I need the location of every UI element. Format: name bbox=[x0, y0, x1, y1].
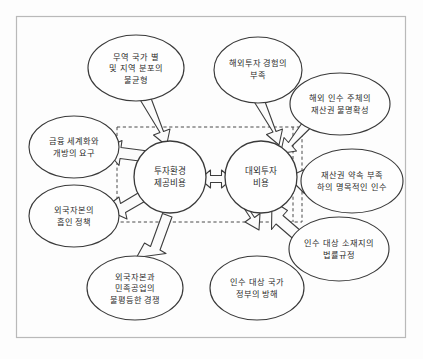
arrow-competition-to-core-left bbox=[137, 214, 173, 258]
factor-trade-distribution-line-0: 무역 국가 별 bbox=[113, 52, 158, 62]
factor-unequal-competition[interactable]: 외국자본과 민족공업의 불평등한 경쟁 bbox=[87, 256, 183, 320]
factor-property-rights-ambiguity-line-1: 재산권 불명확성 bbox=[311, 105, 370, 115]
factor-lack-experience[interactable]: 해외투자 경험의 부족 bbox=[214, 37, 302, 103]
factor-government-obstruction-line-1: 정부의 방해 bbox=[236, 289, 279, 299]
core-node-left[interactable]: 투자환경 제공비용 bbox=[134, 141, 206, 213]
factor-foreign-capital-attraction-line-1: 흡인 정책 bbox=[57, 217, 92, 227]
factor-nominal-acquisition-line-1: 하의 명목적인 인수 bbox=[317, 182, 386, 192]
core-node-right-line-1: 비용 bbox=[253, 178, 269, 188]
factor-trade-distribution[interactable]: 무역 국가 별 및 지역 분포의 불균형 bbox=[88, 35, 184, 101]
factor-unequal-competition-line-2: 불평등한 경쟁 bbox=[110, 295, 161, 305]
core-node-left-line-1: 제공비용 bbox=[154, 178, 186, 188]
factor-legal-regulation-line-1: 법률규정 bbox=[323, 250, 355, 260]
factor-legal-regulation[interactable]: 인수 대상 소재지의 법률규정 bbox=[289, 217, 389, 281]
diagram-root: 무역 국가 별 및 지역 분포의 불균형 금융 세계화와 개방의 요구 외국자본… bbox=[0, 0, 423, 359]
factor-government-obstruction-line-0: 인수 대상 국가 bbox=[230, 277, 283, 287]
core-node-right-line-0: 대외투자 bbox=[245, 165, 277, 176]
factor-nominal-acquisition-line-0: 재산권 약속 부족 bbox=[321, 170, 382, 180]
factor-government-obstruction[interactable]: 인수 대상 국가 정부의 방해 bbox=[210, 256, 304, 320]
factor-financial-globalization-line-1: 개방의 요구 bbox=[53, 148, 96, 158]
factor-property-rights-ambiguity-line-0: 해외 인수 주체의 bbox=[309, 93, 370, 103]
factor-financial-globalization-line-0: 금융 세계화와 bbox=[49, 136, 100, 146]
core-node-right[interactable]: 대외투자 비용 bbox=[225, 141, 297, 213]
factor-property-rights-ambiguity[interactable]: 해외 인수 주체의 재산권 불명확성 bbox=[290, 73, 390, 135]
factor-financial-globalization[interactable]: 금융 세계화와 개방의 요구 bbox=[29, 116, 119, 178]
factor-foreign-capital-attraction[interactable]: 외국자본의 흡인 정책 bbox=[29, 185, 119, 247]
factor-unequal-competition-line-1: 민족공업의 bbox=[115, 283, 155, 293]
factor-nominal-acquisition[interactable]: 재산권 약속 부족 하의 명목적인 인수 bbox=[301, 149, 403, 213]
factor-foreign-capital-attraction-line-0: 외국자본의 bbox=[54, 205, 94, 215]
factor-trade-distribution-line-2: 불균형 bbox=[124, 75, 148, 85]
diagram-canvas: 무역 국가 별 및 지역 분포의 불균형 금융 세계화와 개방의 요구 외국자본… bbox=[0, 0, 423, 359]
factor-lack-experience-line-1: 부족 bbox=[250, 70, 266, 80]
factor-trade-distribution-line-1: 및 지역 분포의 bbox=[109, 63, 162, 73]
core-node-left-line-0: 투자환경 bbox=[154, 165, 186, 176]
factor-lack-experience-line-0: 해외투자 경험의 bbox=[229, 58, 288, 68]
factor-unequal-competition-line-0: 외국자본과 bbox=[115, 272, 155, 282]
factor-legal-regulation-line-0: 인수 대상 소재지의 bbox=[304, 238, 373, 248]
